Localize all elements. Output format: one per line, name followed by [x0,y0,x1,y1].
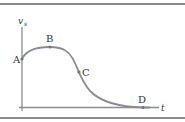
point-d-marker [141,106,144,109]
point-c-marker [77,70,80,73]
velocity-time-graph: A B C D v s t [0,0,185,122]
point-d-label: D [138,94,146,105]
y-axis-subscript: s [24,20,27,27]
x-axis-label: t [161,103,165,113]
point-b-label: B [46,33,53,44]
point-b-marker [48,45,51,48]
point-a-marker [20,57,23,60]
y-axis-label: v [18,16,23,26]
point-c-label: C [82,67,90,78]
point-a-label: A [12,54,21,65]
